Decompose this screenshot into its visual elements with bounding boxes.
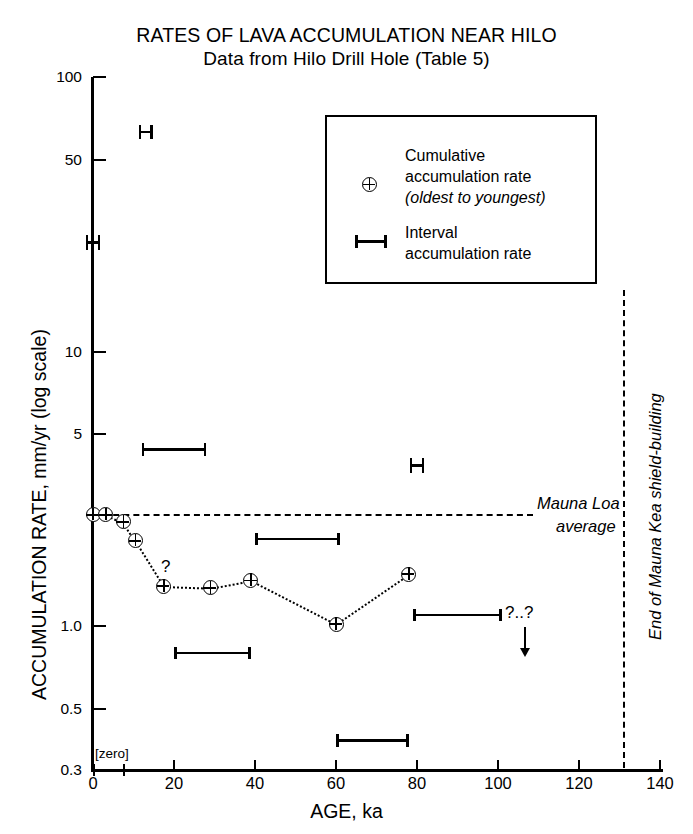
cumulative-point bbox=[116, 514, 131, 529]
chart-title: RATES OF LAVA ACCUMULATION NEAR HILO bbox=[0, 24, 693, 47]
y-tick-label: 10 bbox=[36, 343, 82, 361]
x-tick-label: 40 bbox=[233, 774, 277, 793]
x-tick bbox=[416, 760, 418, 769]
y-tick-label: 0.5 bbox=[36, 700, 82, 718]
y-tick bbox=[93, 433, 106, 435]
connector-segment bbox=[335, 574, 409, 626]
zero-interval-bar bbox=[93, 769, 125, 771]
cumulative-point bbox=[156, 579, 171, 594]
legend-entry-interval-line1: Interval bbox=[405, 223, 457, 242]
range-marker bbox=[410, 464, 424, 466]
end-of-shield-building-line bbox=[623, 290, 625, 768]
range-marker bbox=[86, 241, 100, 243]
y-tick bbox=[93, 625, 106, 627]
chart-subtitle: Data from Hilo Drill Hole (Table 5) bbox=[0, 48, 693, 70]
y-tick bbox=[93, 708, 106, 710]
x-tick-label: 140 bbox=[638, 774, 682, 793]
chart-legend: Cumulative accumulation rate (oldest to … bbox=[325, 115, 597, 284]
interval-bar bbox=[413, 614, 502, 617]
y-tick bbox=[93, 76, 106, 78]
y-tick-label: 50 bbox=[36, 151, 82, 169]
x-tick bbox=[335, 760, 337, 769]
x-tick-label: 80 bbox=[395, 774, 439, 793]
x-tick-label: 0 bbox=[71, 774, 115, 793]
end-of-shield-building-label: End of Mauna Kea shield-building bbox=[646, 393, 665, 640]
mauna-loa-average-label-line2: average bbox=[556, 517, 616, 536]
legend-entry-cumulative-line3: (oldest to youngest) bbox=[405, 188, 546, 207]
x-tick bbox=[659, 760, 661, 769]
cumulative-point bbox=[203, 580, 218, 595]
x-tick-label: 120 bbox=[557, 774, 601, 793]
legend-interval-bar-icon bbox=[355, 240, 387, 243]
y-axis-line bbox=[91, 77, 94, 772]
downward-arrow-stem bbox=[524, 627, 526, 649]
interval-bar bbox=[336, 739, 409, 742]
cumulative-point bbox=[401, 567, 416, 582]
x-axis-label: AGE, ka bbox=[0, 800, 693, 823]
legend-entry-cumulative-line2: accumulation rate bbox=[405, 167, 531, 186]
interval-bar bbox=[174, 652, 251, 655]
cumulative-point bbox=[329, 617, 344, 632]
query-right-label: ?..? bbox=[505, 603, 533, 623]
mauna-loa-average-line bbox=[93, 514, 533, 516]
y-axis-label: ACCUMULATION RATE, mm/yr (log scale) bbox=[28, 329, 51, 700]
mauna-loa-average-label-line1: Mauna Loa bbox=[537, 494, 620, 513]
y-tick-label: 100 bbox=[36, 68, 82, 86]
x-tick-label: 100 bbox=[476, 774, 520, 793]
y-tick bbox=[93, 159, 106, 161]
x-tick bbox=[497, 760, 499, 769]
legend-entry-cumulative-line1: Cumulative bbox=[405, 146, 485, 165]
x-tick-label: 60 bbox=[314, 774, 358, 793]
query-left-label: ? bbox=[161, 557, 170, 577]
y-tick-label: 1.0 bbox=[36, 617, 82, 635]
x-tick bbox=[254, 760, 256, 769]
range-marker bbox=[139, 131, 153, 133]
y-tick bbox=[93, 351, 106, 353]
lava-accumulation-chart: RATES OF LAVA ACCUMULATION NEAR HILO Dat… bbox=[0, 0, 693, 834]
connector-segment bbox=[250, 581, 336, 626]
interval-bar bbox=[255, 538, 340, 541]
x-tick bbox=[578, 760, 580, 769]
cumulative-point bbox=[128, 533, 143, 548]
zero-interval-label: [zero] bbox=[95, 746, 129, 761]
x-tick bbox=[173, 760, 175, 769]
cumulative-point bbox=[243, 573, 258, 588]
x-axis-line bbox=[91, 769, 663, 772]
legend-circle-plus-icon bbox=[362, 177, 377, 192]
downward-arrow-head bbox=[520, 648, 530, 657]
y-tick-label: 5 bbox=[36, 425, 82, 443]
legend-entry-interval-line2: accumulation rate bbox=[405, 244, 531, 263]
cumulative-point bbox=[98, 507, 113, 522]
x-tick-label: 20 bbox=[152, 774, 196, 793]
interval-bar bbox=[142, 448, 207, 451]
